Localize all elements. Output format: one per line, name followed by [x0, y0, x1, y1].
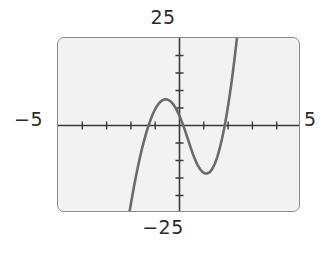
figure-container: 25 −25 −5 5 g — [0, 0, 326, 255]
plot-area — [58, 38, 300, 212]
y-axis-min-label: −25 — [0, 216, 326, 238]
x-axis-min-label: −5 — [14, 108, 43, 130]
calculator-screen: g — [57, 37, 300, 212]
axes — [58, 38, 300, 212]
x-axis-max-label: 5 — [304, 108, 317, 130]
y-axis-max-label: 25 — [0, 6, 326, 28]
